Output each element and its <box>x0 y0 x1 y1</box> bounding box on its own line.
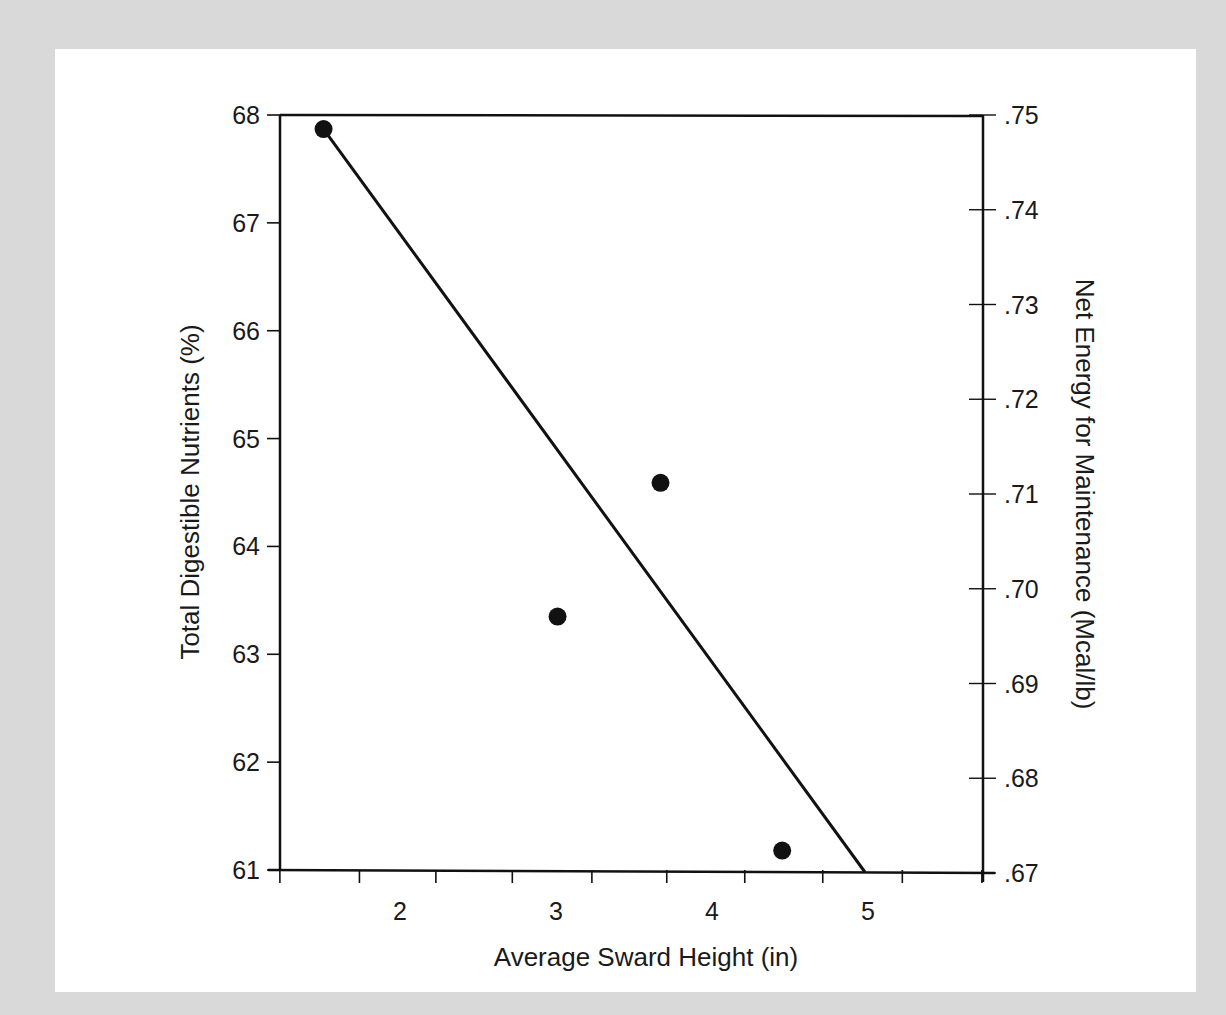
y-tick-label: 65 <box>232 425 260 453</box>
y-tick-label: 66 <box>232 317 260 345</box>
x-tick-label: 4 <box>705 897 719 925</box>
y-axis-left-title: Total Digestible Nutrients (%) <box>175 324 205 659</box>
y-right-tick-label: .72 <box>1004 385 1039 413</box>
y-tick-label: 67 <box>232 209 260 237</box>
bottom-axis-line <box>268 870 995 873</box>
x-axis-ticks: 2345 <box>280 870 982 925</box>
x-axis-title: Average Sward Height (in) <box>494 942 798 972</box>
y-right-tick-label: .70 <box>1004 575 1039 603</box>
data-point <box>773 842 791 860</box>
scatter-chart: 2345 6867666564636261 .75.74.73.72.71.70… <box>0 0 1226 1015</box>
y-tick-label: 61 <box>232 856 260 884</box>
y-axis-right-title: Net Energy for Maintenance (Mcal/lb) <box>1070 279 1100 710</box>
top-axis-line <box>280 115 983 116</box>
y-tick-label: 63 <box>232 640 260 668</box>
data-point <box>315 120 333 138</box>
regression-line <box>324 129 865 872</box>
y-tick-label: 62 <box>232 748 260 776</box>
y-right-tick-label: .75 <box>1004 101 1039 129</box>
y-tick-label: 64 <box>232 532 260 560</box>
data-point <box>549 608 567 626</box>
x-tick-label: 3 <box>549 897 563 925</box>
plot-frame <box>268 115 995 882</box>
y-right-tick-label: .68 <box>1004 764 1039 792</box>
y-right-tick-label: .69 <box>1004 670 1039 698</box>
data-series <box>315 120 865 872</box>
x-tick-label: 5 <box>861 897 875 925</box>
y-right-tick-label: .74 <box>1004 196 1039 224</box>
data-point <box>652 474 670 492</box>
y-axis-right-ticks: .75.74.73.72.71.70.69.68.67 <box>969 101 1039 887</box>
y-right-tick-label: .67 <box>1004 859 1039 887</box>
y-right-tick-label: .71 <box>1004 480 1039 508</box>
y-tick-label: 68 <box>232 101 260 129</box>
y-right-tick-label: .73 <box>1004 291 1039 319</box>
y-axis-left-ticks: 6867666564636261 <box>232 101 280 884</box>
x-tick-label: 2 <box>393 897 407 925</box>
